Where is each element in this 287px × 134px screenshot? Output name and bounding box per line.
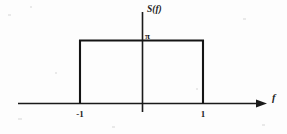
figure-container: S(f) f π -1 1 (0, 0, 287, 134)
spectrum-plot: S(f) f π -1 1 (0, 0, 287, 134)
x-tick-label-minus-one: -1 (76, 109, 84, 119)
y-axis-label: S(f) (147, 4, 162, 15)
scan-noise (8, 6, 265, 128)
x-tick-label-one: 1 (201, 109, 206, 119)
x-axis-label: f (272, 92, 277, 103)
rectangular-pulse-trace (80, 41, 203, 104)
x-axis-arrow-icon (256, 99, 267, 107)
amplitude-label-pi: π (145, 31, 150, 41)
